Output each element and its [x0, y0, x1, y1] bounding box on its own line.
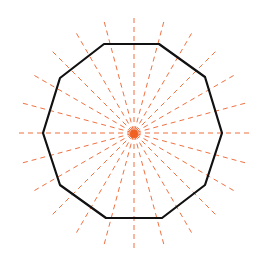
dodecagon-symmetry-diagram — [0, 0, 266, 253]
center-point — [130, 130, 138, 138]
